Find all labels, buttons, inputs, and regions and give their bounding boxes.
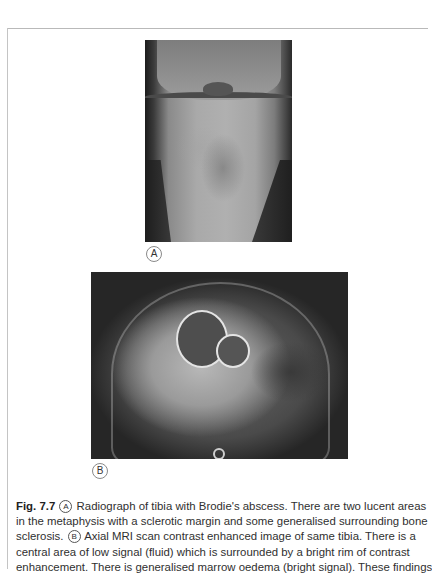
caption-line-4: central area of low signal (fluid) which… [16, 545, 426, 560]
figure-panel-b-mri [91, 272, 348, 459]
intercondylar-notch [203, 82, 233, 96]
caption-text: sclerosis. [16, 530, 63, 542]
soft-tissue-left [145, 160, 171, 242]
circled-b-marker: B [68, 530, 81, 543]
figure-panel-a-radiograph [145, 40, 292, 242]
vessel-ring [213, 448, 225, 459]
page-left-rule [7, 28, 8, 569]
figure-caption: Fig. 7.7 A Radiograph of tibia with Brod… [16, 499, 426, 575]
caption-line-3: sclerosis. B Axial MRI scan contrast enh… [16, 529, 426, 544]
caption-line-5: enhancement. There is generalised marrow… [16, 560, 426, 575]
panel-label-b: B [92, 463, 108, 479]
soft-tissue-right [252, 160, 292, 242]
circled-a-marker: A [59, 500, 72, 513]
figure-number: Fig. 7.7 [16, 500, 55, 512]
caption-line-2: in the metaphysis with a sclerotic margi… [16, 514, 426, 529]
page-top-rule [7, 28, 428, 29]
abscess-cavity-small [216, 334, 250, 368]
panel-label-a: A [146, 246, 162, 262]
caption-text: Axial MRI scan contrast enhanced image o… [84, 530, 416, 542]
caption-text: Radiograph of tibia with Brodie's absces… [77, 500, 427, 512]
caption-line-1: Fig. 7.7 A Radiograph of tibia with Brod… [16, 499, 426, 514]
cortex-outline [111, 282, 330, 459]
